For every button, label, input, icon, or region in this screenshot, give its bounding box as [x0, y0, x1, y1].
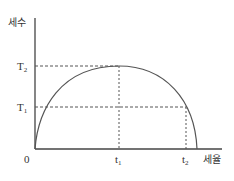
y-axis-label: 세수 [8, 17, 26, 28]
t2-cap-label: T2 [17, 60, 28, 74]
x-axis-label: 세율 [203, 154, 221, 165]
origin-label: 0 [24, 153, 30, 165]
t1-tick-label: t1 [115, 153, 122, 167]
laffer-chart: 세수 세율 0 T2 T1 t1 t2 [0, 0, 234, 181]
t2-tick-label: t2 [182, 153, 189, 167]
t1-cap-label: T1 [17, 101, 28, 115]
